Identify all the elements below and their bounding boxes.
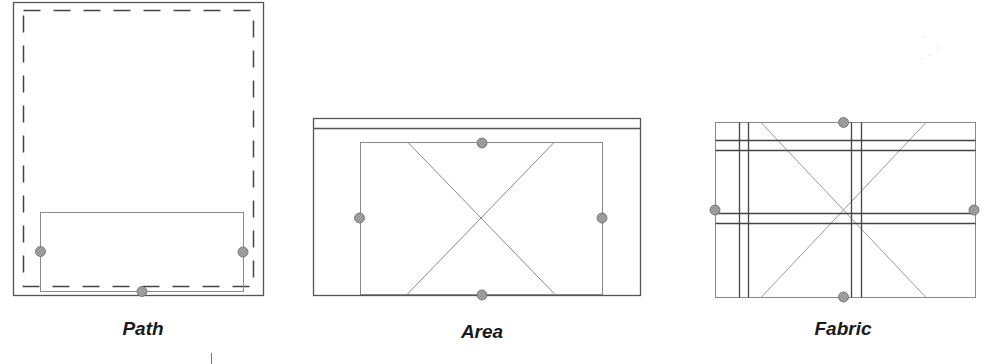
fabric-label: Fabric <box>814 318 871 340</box>
control-point-handle[interactable] <box>839 292 849 302</box>
path-diagram <box>14 3 264 297</box>
area-diagonal-line <box>407 143 554 295</box>
control-point-handle[interactable] <box>36 247 46 257</box>
area-outer-boundary <box>314 119 641 296</box>
control-point-handle[interactable] <box>137 287 147 297</box>
path-inner-region <box>41 213 244 292</box>
faint-speckle-mark <box>921 36 937 59</box>
control-point-handle[interactable] <box>710 205 720 215</box>
path-outer-boundary <box>14 3 264 296</box>
control-point-handle[interactable] <box>355 213 365 223</box>
control-point-handle[interactable] <box>597 213 607 223</box>
control-point-handle[interactable] <box>969 205 979 215</box>
area-label: Area <box>461 321 503 343</box>
diagram-canvas <box>0 0 993 364</box>
path-label: Path <box>122 318 163 340</box>
area-diagram <box>314 119 641 301</box>
fabric-diagram <box>710 118 979 303</box>
control-point-handle[interactable] <box>477 138 487 148</box>
control-point-handle[interactable] <box>477 290 487 300</box>
control-point-handle[interactable] <box>238 247 248 257</box>
path-dashed-boundary <box>24 11 254 287</box>
area-diagonal-line <box>408 143 555 295</box>
control-point-handle[interactable] <box>839 118 849 128</box>
fabric-boundary <box>716 123 976 298</box>
